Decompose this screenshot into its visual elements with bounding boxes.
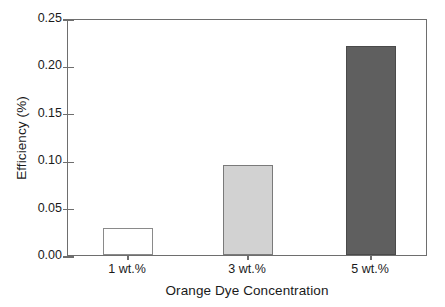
y-tick-label: 0.20 <box>22 58 62 72</box>
x-axis-title: Orange Dye Concentration <box>67 283 427 298</box>
y-axis-tick-stub <box>63 114 68 115</box>
y-axis-tick <box>68 19 74 20</box>
y-tick-label: 0.05 <box>22 201 62 215</box>
x-axis-tick <box>127 255 128 260</box>
x-axis-tick <box>247 255 248 260</box>
bar-1 <box>103 228 153 255</box>
x-tick-label: 5 wt.% <box>351 262 389 276</box>
bar-3 <box>346 46 396 255</box>
y-axis-tick-stub <box>63 209 68 210</box>
y-axis-tick-labels: 0.25 0.20 0.15 0.10 0.05 0.00 <box>18 0 62 307</box>
y-tick-label: 0.10 <box>22 153 62 167</box>
bar-chart: Efficiency (%) 0.25 0.20 0.15 0.10 0.05 … <box>0 0 445 307</box>
y-axis-tick-stub <box>63 19 68 20</box>
y-tick-label: 0.25 <box>22 11 62 25</box>
y-tick-label: 0.00 <box>22 248 62 262</box>
y-axis-tick <box>68 162 74 163</box>
bar-2 <box>223 165 273 255</box>
x-axis-tick <box>370 255 371 260</box>
y-axis-tick-stub <box>63 256 68 257</box>
y-axis-tick <box>68 209 74 210</box>
y-axis-tick <box>68 256 74 257</box>
plot-area <box>67 19 427 256</box>
y-axis-tick <box>68 67 74 68</box>
y-tick-label: 0.15 <box>22 106 62 120</box>
y-axis-tick <box>68 114 74 115</box>
x-tick-label: 3 wt.% <box>228 262 266 276</box>
x-tick-label: 1 wt.% <box>108 262 146 276</box>
y-axis-tick-stub <box>63 162 68 163</box>
y-axis-tick-stub <box>63 67 68 68</box>
